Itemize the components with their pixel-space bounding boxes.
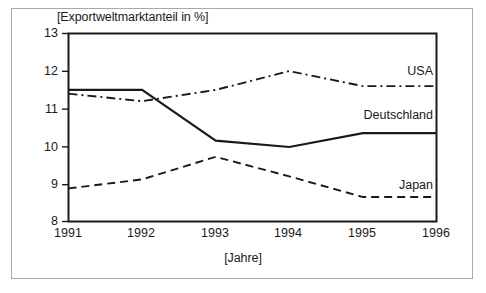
series-label-japan: Japan [330,178,433,192]
y-axis-title: [Exportweltmarktanteil in %] [57,10,208,24]
x-tick-label-1995: 1995 [335,226,389,240]
line-chart-plot [0,0,486,293]
chart-figure: [Exportweltmarktanteil in %] [Jahre] 13 … [0,0,486,293]
y-tick-label-11: 11 [36,102,58,116]
y-tick-label-9: 9 [36,177,58,191]
y-tick-label-10: 10 [36,140,58,154]
series-label-usa: USA [330,64,433,78]
x-tick-label-1996: 1996 [409,226,463,240]
y-tick-label-13: 13 [36,26,58,40]
y-tick-label-12: 12 [36,64,58,78]
x-axis-title: [Jahre] [0,251,486,265]
plot-area-border [69,34,437,222]
x-tick-label-1992: 1992 [114,226,168,240]
series-label-deutschland: Deutschland [310,108,433,122]
x-tick-label-1993: 1993 [188,226,242,240]
x-tick-label-1994: 1994 [261,226,315,240]
x-tick-label-1991: 1991 [41,226,95,240]
